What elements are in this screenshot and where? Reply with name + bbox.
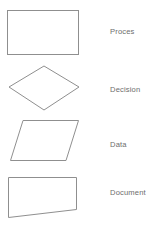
legend-row-document: Document bbox=[0, 172, 167, 225]
data-shape-cell bbox=[0, 115, 95, 172]
data-shape bbox=[0, 115, 95, 172]
legend-row-process: Proces bbox=[0, 0, 167, 62]
decision-shape bbox=[0, 62, 95, 115]
flowchart-symbol-legend: Proces Decision Data Document bbox=[0, 0, 167, 225]
legend-label-data: Data bbox=[110, 141, 167, 149]
legend-label-document: Document bbox=[110, 189, 167, 197]
legend-label-process: Proces bbox=[110, 28, 167, 36]
document-shape bbox=[0, 172, 95, 225]
legend-row-data: Data bbox=[0, 115, 167, 172]
legend-label-decision: Decision bbox=[110, 86, 167, 94]
process-shape bbox=[0, 0, 95, 62]
document-shape-cell bbox=[0, 172, 95, 225]
process-shape-cell bbox=[0, 0, 95, 62]
legend-row-decision: Decision bbox=[0, 62, 167, 115]
decision-shape-cell bbox=[0, 62, 95, 115]
